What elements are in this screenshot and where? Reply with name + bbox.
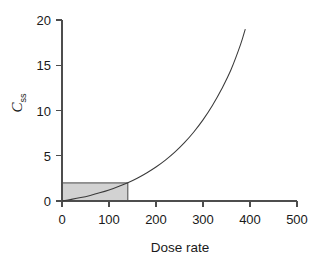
y-tick-label-5: 5 <box>44 149 51 164</box>
x-tick-label-500: 500 <box>286 212 308 227</box>
y-tick-label-10: 10 <box>37 104 51 119</box>
y-tick-label-0: 0 <box>44 194 51 209</box>
linear-region-shading <box>62 183 128 201</box>
x-tick-label-0: 0 <box>58 212 65 227</box>
chart-figure: 20 15 10 5 0 0 100 200 300 400 500 Dose … <box>0 0 311 266</box>
y-axis-title-subscript: ss <box>18 93 28 103</box>
x-tick-label-100: 100 <box>98 212 120 227</box>
x-tick-label-300: 300 <box>192 212 214 227</box>
y-tick-label-15: 15 <box>37 58 51 73</box>
x-tick-label-400: 400 <box>239 212 261 227</box>
y-tick-label-20: 20 <box>37 13 51 28</box>
x-tick-label-200: 200 <box>145 212 167 227</box>
x-axis-title: Dose rate <box>151 240 210 255</box>
